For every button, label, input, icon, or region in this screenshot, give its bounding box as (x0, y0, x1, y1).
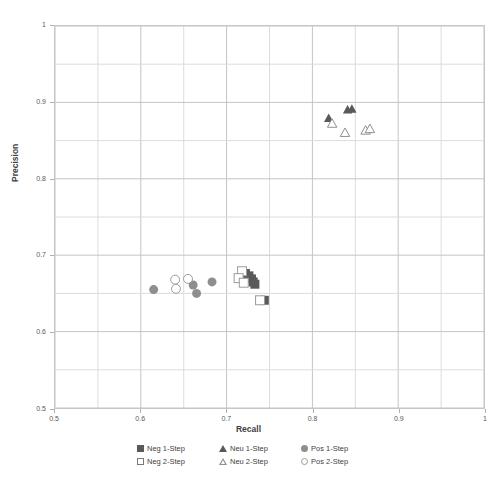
data-point (250, 280, 259, 289)
x-tick-mark (140, 409, 141, 413)
y-tick-label: 0.9 (18, 98, 46, 105)
triangle-hollow-icon (219, 458, 227, 465)
x-tick-label: 0.9 (384, 415, 414, 422)
x-tick-label: 0.5 (39, 415, 69, 422)
series-pos-1-step (149, 277, 216, 297)
legend-item-pos-2-step[interactable]: Pos 2-Step (301, 455, 382, 468)
scatter-chart: Precision Recall 0.50.60.70.80.91 0.50.6… (0, 0, 497, 482)
x-tick-label: 0.8 (298, 415, 328, 422)
legend-label: Neu 1-Step (230, 445, 268, 453)
x-tick-label: 0.6 (125, 415, 155, 422)
legend-item-neg-1-step[interactable]: Neg 1-Step (137, 442, 219, 455)
square-filled-icon (137, 445, 144, 452)
data-point (208, 277, 217, 286)
legend-label: Neg 2-Step (147, 458, 185, 466)
data-points-layer (55, 26, 484, 408)
data-point (192, 289, 201, 298)
data-point (256, 296, 265, 305)
legend-item-pos-1-step[interactable]: Pos 1-Step (301, 442, 382, 455)
chart-legend: Neg 1-StepNeu 1-StepPos 1-StepNeg 2-Step… (137, 442, 382, 468)
y-tick-label: 1 (18, 21, 46, 28)
data-point (171, 284, 180, 293)
circle-filled-icon (301, 445, 308, 452)
legend-item-neg-2-step[interactable]: Neg 2-Step (137, 455, 219, 468)
triangle-filled-icon (219, 445, 227, 452)
y-tick-label: 0.5 (18, 405, 46, 412)
legend-label: Pos 2-Step (311, 458, 348, 466)
plot-area (54, 25, 485, 409)
x-tick-mark (485, 409, 486, 413)
legend-label: Neu 2-Step (230, 458, 268, 466)
x-tick-mark (313, 409, 314, 413)
circle-hollow-icon (301, 458, 308, 465)
legend-item-neu-2-step[interactable]: Neu 2-Step (219, 455, 301, 468)
legend-label: Neg 1-Step (147, 445, 185, 453)
series-neu-1-step (324, 104, 357, 122)
data-point (340, 128, 349, 137)
square-hollow-icon (137, 458, 144, 465)
x-tick-mark (226, 409, 227, 413)
series-neu-2-step (327, 119, 374, 137)
legend-item-neu-1-step[interactable]: Neu 1-Step (219, 442, 301, 455)
x-tick-label: 1 (470, 415, 497, 422)
data-point (239, 278, 248, 287)
x-tick-label: 0.7 (211, 415, 241, 422)
y-tick-label: 0.8 (18, 175, 46, 182)
x-tick-mark (54, 409, 55, 413)
legend-label: Pos 1-Step (311, 445, 348, 453)
x-tick-mark (399, 409, 400, 413)
x-axis-title: Recall (0, 424, 497, 434)
data-point (149, 285, 158, 294)
data-point (171, 275, 180, 284)
y-tick-label: 0.6 (18, 328, 46, 335)
y-tick-label: 0.7 (18, 251, 46, 258)
data-point (184, 274, 193, 283)
